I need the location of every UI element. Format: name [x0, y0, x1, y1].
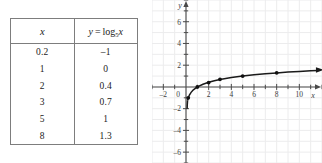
- x-tick-label: 4: [229, 90, 233, 99]
- header-y-variable: y: [88, 26, 92, 37]
- cell-x: 5: [11, 111, 75, 128]
- cell-y: 1.3: [74, 128, 138, 145]
- cell-y: –1: [74, 44, 138, 61]
- data-point: [275, 71, 279, 75]
- cell-y: 0.4: [74, 77, 138, 94]
- cell-x: 3: [11, 94, 75, 111]
- table-row: 2 0.4: [11, 77, 138, 94]
- y-tick-label: –4: [173, 126, 182, 135]
- column-header-x-label: x: [40, 26, 45, 37]
- table-row: 3 0.7: [11, 94, 138, 111]
- y-axis-label: y: [177, 1, 182, 10]
- y-tick-label: –2: [173, 104, 182, 113]
- column-header-x: x: [11, 19, 75, 44]
- cell-x: 2: [11, 77, 75, 94]
- x-tick-label: –2: [159, 90, 168, 99]
- y-tick-label: 4: [177, 39, 181, 48]
- data-point: [186, 96, 190, 100]
- cell-y: 1: [74, 111, 138, 128]
- x-tick-label: 6: [252, 90, 256, 99]
- header-log-text: log: [103, 26, 116, 37]
- x-axis-label: x: [310, 91, 315, 100]
- cell-x: 1: [11, 60, 75, 77]
- data-point: [218, 77, 222, 81]
- x-tick-label: 2: [207, 90, 211, 99]
- data-point: [207, 81, 211, 85]
- y-tick-label: 6: [177, 18, 181, 27]
- header-log-base: 5: [115, 31, 118, 38]
- table-row: 0.2 –1: [11, 44, 138, 61]
- table-header: x y=log5x: [11, 19, 138, 44]
- table-row: 1 0: [11, 60, 138, 77]
- x-tick-label: 0: [176, 90, 180, 99]
- cell-y: 0: [74, 60, 138, 77]
- logarithm-value-table: x y=log5x 0.2 –1 1 0 2 0.4: [10, 18, 138, 145]
- column-header-y-label: y=log5x: [88, 26, 123, 37]
- logarithm-graph-panel: –20246810–6–4–2246 xy: [152, 0, 322, 163]
- table-row: 5 1: [11, 111, 138, 128]
- table-body: 0.2 –1 1 0 2 0.4 3 0.7 5 1: [11, 44, 138, 145]
- cell-x: 0.2: [11, 44, 75, 61]
- y-tick-label: 2: [177, 61, 181, 70]
- y-axis-arrowhead: [183, 1, 188, 7]
- x-tick-label: 8: [275, 90, 279, 99]
- header-equals-sign: =: [95, 26, 101, 37]
- table-header-row: x y=log5x: [11, 19, 138, 44]
- cell-x: 8: [11, 128, 75, 145]
- table-row: 8 1.3: [11, 128, 138, 145]
- data-point: [195, 85, 199, 89]
- data-point: [241, 74, 245, 78]
- y-tick-label: –6: [173, 148, 182, 157]
- x-tick-label: 10: [296, 90, 304, 99]
- axis-names-layer: xy: [177, 1, 315, 100]
- header-log-argument: x: [119, 26, 123, 37]
- curve-arrowhead: [316, 67, 322, 73]
- logarithm-graph: –20246810–6–4–2246 xy: [152, 0, 322, 163]
- logarithm-value-table-panel: x y=log5x 0.2 –1 1 0 2 0.4: [10, 18, 138, 145]
- figure-container: x y=log5x 0.2 –1 1 0 2 0.4: [0, 0, 322, 163]
- cell-y: 0.7: [74, 94, 138, 111]
- x-axis-arrowhead: [315, 84, 321, 89]
- curve-layer: [187, 67, 322, 108]
- column-header-y: y=log5x: [74, 19, 138, 44]
